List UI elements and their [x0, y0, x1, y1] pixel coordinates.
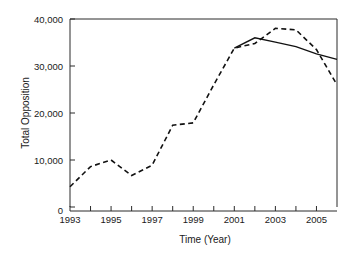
x-tick-label: 1997: [142, 214, 163, 225]
x-axis-tick-labels: 1993199519971999200120032005: [59, 214, 327, 225]
x-axis-title: Time (Year): [179, 234, 231, 245]
y-axis-ticks: [70, 19, 75, 207]
x-tick-label: 2005: [306, 214, 327, 225]
y-tick-label: 10,000: [34, 155, 63, 166]
y-tick-label: 20,000: [34, 108, 63, 119]
axis-spines: [70, 19, 337, 211]
y-tick-label: 30,000: [34, 61, 63, 72]
chart-figure: 010,00020,00030,00040,000 19931995199719…: [0, 0, 360, 261]
x-tick-label: 2001: [224, 214, 245, 225]
y-axis-title: Total Opposition: [20, 77, 31, 149]
series-observed-dashed: [70, 28, 337, 186]
x-tick-label: 1995: [101, 214, 122, 225]
x-tick-label: 1999: [183, 214, 204, 225]
series-trend-solid: [234, 38, 337, 60]
x-tick-label: 2003: [265, 214, 286, 225]
y-axis-tick-labels: 010,00020,00030,00040,000: [34, 14, 63, 217]
x-tick-label: 1993: [59, 214, 80, 225]
line-chart: 010,00020,00030,00040,000 19931995199719…: [0, 0, 360, 261]
y-tick-label: 40,000: [34, 14, 63, 25]
x-axis-ticks: [70, 206, 316, 211]
